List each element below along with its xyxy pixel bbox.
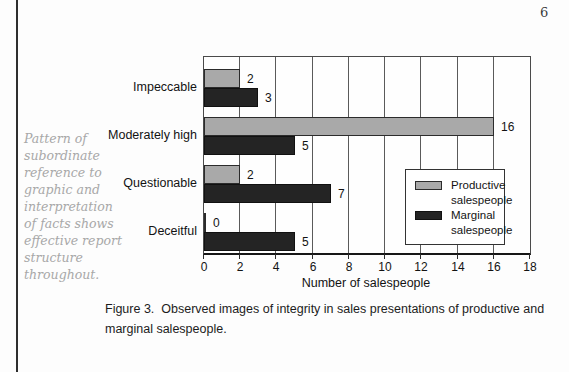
gridline-x8 [348, 57, 349, 253]
legend-entry-productive: Productive salespeople [415, 178, 500, 208]
tick-label-x0: 0 [192, 260, 216, 274]
tick-mark-x2 [239, 254, 240, 259]
tick-label-x14: 14 [446, 260, 470, 274]
tick-label-x18: 18 [518, 260, 542, 274]
tick-mark-x16 [493, 254, 494, 259]
tick-mark-x4 [275, 254, 276, 259]
tick-label-x6: 6 [301, 260, 325, 274]
gridline-x6 [312, 57, 313, 253]
margin-note-line: structure [24, 249, 139, 266]
margin-note-line: interpretation [24, 198, 139, 215]
gridline-x4 [275, 57, 276, 253]
chart-legend: Productive salespeopleMarginal salespeop… [405, 169, 505, 245]
value-label-impeccable-productive: 2 [247, 72, 254, 86]
tick-mark-x10 [384, 254, 385, 259]
tick-label-x2: 2 [228, 260, 252, 274]
legend-label-marginal: Marginal salespeople [451, 208, 512, 238]
caption-line: marginal salespeople. [105, 319, 535, 339]
bar-productive-deceitful [204, 213, 206, 232]
margin-note-line: subordinate [24, 147, 139, 164]
value-label-deceitful-productive: 0 [213, 216, 220, 230]
caption-line: Figure 3. Observed images of integrity i… [105, 299, 535, 319]
bar-productive-impeccable [204, 69, 240, 88]
tick-mark-x6 [312, 254, 313, 259]
category-label-impeccable: Impeccable [48, 79, 197, 95]
tick-mark-x0 [203, 254, 204, 259]
gridline-x10 [384, 57, 385, 253]
tick-label-x4: 4 [264, 260, 288, 274]
tick-mark-x14 [457, 254, 458, 259]
legend-label-productive: Productive salespeople [451, 178, 512, 208]
tick-mark-x18 [529, 254, 530, 259]
legend-swatch-marginal [415, 211, 442, 220]
value-label-moderately-high-productive: 16 [501, 120, 514, 134]
x-axis-title: Number of salespeople [203, 276, 529, 290]
bar-marginal-impeccable [204, 88, 258, 107]
value-label-moderately-high-marginal: 5 [302, 139, 309, 153]
figure-caption: Figure 3. Observed images of integrity i… [105, 299, 535, 339]
category-label-deceitful: Deceitful [48, 223, 197, 239]
bar-marginal-questionable [204, 184, 331, 203]
bar-productive-questionable [204, 165, 240, 184]
margin-annotation: Pattern ofsubordinatereference tographic… [24, 130, 139, 283]
value-label-questionable-marginal: 7 [338, 187, 345, 201]
tick-label-x12: 12 [409, 260, 433, 274]
value-label-impeccable-marginal: 3 [265, 91, 272, 105]
tick-mark-x8 [348, 254, 349, 259]
tick-label-x8: 8 [337, 260, 361, 274]
tick-label-x16: 16 [482, 260, 506, 274]
tick-mark-x12 [420, 254, 421, 259]
bar-productive-moderately-high [204, 117, 494, 136]
category-label-moderately-high: Moderately high [48, 127, 197, 143]
legend-swatch-productive [415, 181, 442, 190]
category-label-questionable: Questionable [48, 175, 197, 191]
value-label-questionable-productive: 2 [247, 168, 254, 182]
bar-marginal-moderately-high [204, 136, 295, 155]
document-page: 6 Pattern ofsubordinatereference tograph… [0, 0, 569, 372]
legend-entry-marginal: Marginal salespeople [415, 208, 500, 238]
value-label-deceitful-marginal: 5 [302, 235, 309, 249]
page-number: 6 [540, 5, 548, 20]
margin-note-line: throughout. [24, 266, 139, 283]
tick-label-x10: 10 [373, 260, 397, 274]
bar-marginal-deceitful [204, 232, 295, 251]
page-left-rule [16, 0, 18, 372]
